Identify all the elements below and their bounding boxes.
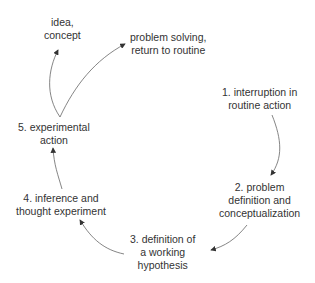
node-label-line: 2. problem <box>219 181 300 194</box>
node-label-line: return to routine <box>130 44 206 57</box>
node-label-line: definition and <box>219 194 300 207</box>
node-label-line: 1. interruption in <box>222 86 297 99</box>
node-idea: idea, concept <box>44 16 81 42</box>
node-label-line: idea, <box>44 16 81 29</box>
node-2-problem-definition: 2. problem definition and conceptualizat… <box>219 181 300 220</box>
node-1-interruption: 1. interruption in routine action <box>222 86 297 112</box>
node-label-line: routine action <box>222 99 297 112</box>
node-5-experimental-action: 5. experimental action <box>18 121 90 147</box>
node-3-working-hypothesis: 3. definition of a working hypothesis <box>130 233 195 272</box>
node-label-line: hypothesis <box>130 259 195 272</box>
node-label-line: thought experiment <box>16 205 106 218</box>
node-4-inference: 4. inference and thought experiment <box>16 192 106 218</box>
node-label-line: action <box>18 134 90 147</box>
arrow-3-to-4 <box>80 220 124 254</box>
arrow-4-to-5 <box>53 148 62 189</box>
node-label-line: conceptualization <box>219 207 300 220</box>
arrow-2-to-3 <box>211 225 247 250</box>
arrow-5-to-solve <box>60 44 125 117</box>
node-label-line: problem solving, <box>130 31 206 44</box>
node-problem-solving: problem solving, return to routine <box>130 31 206 57</box>
arrow-5-to-idea <box>50 50 60 117</box>
arrow-1-to-2 <box>271 115 280 175</box>
node-label-line: concept <box>44 29 81 42</box>
node-label-line: 5. experimental <box>18 121 90 134</box>
node-label-line: a working <box>130 246 195 259</box>
node-label-line: 4. inference and <box>16 192 106 205</box>
node-label-line: 3. definition of <box>130 233 195 246</box>
